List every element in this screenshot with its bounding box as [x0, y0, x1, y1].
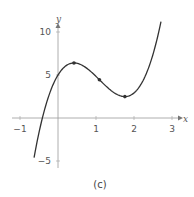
function-curve	[34, 22, 161, 158]
y-tick-label: −5	[38, 156, 51, 166]
x-axis-label: x	[183, 114, 188, 124]
x-tick-label: 3	[169, 124, 175, 134]
axes	[12, 23, 183, 168]
y-axis-label: y	[55, 14, 62, 24]
marked-points	[72, 61, 127, 98]
x-tick-label: −1	[13, 124, 26, 134]
figure-caption: (c)	[93, 179, 106, 190]
x-tick-label: 2	[131, 124, 137, 134]
x-tick-label: 1	[93, 124, 99, 134]
axis-ticks: −1123−5510	[13, 27, 175, 166]
cubic-function-graph: −1123−5510 x y (c)	[0, 0, 194, 197]
local-max-point	[72, 61, 76, 65]
local-min-point	[123, 95, 127, 99]
y-tick-label: 10	[40, 27, 52, 37]
y-tick-label: 5	[45, 70, 51, 80]
inflection-point	[98, 78, 102, 82]
